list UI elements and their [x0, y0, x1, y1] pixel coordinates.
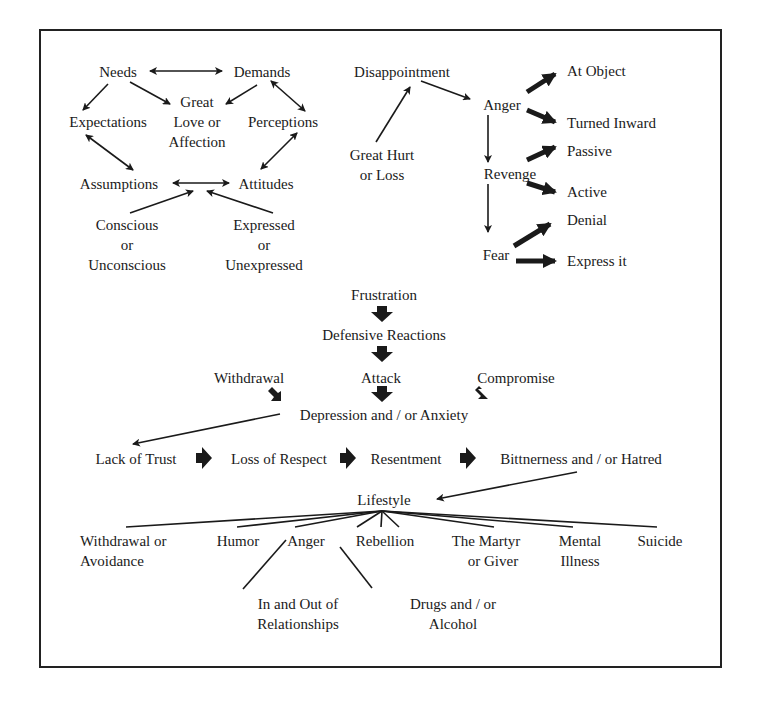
outcome-drugs-line1: Drugs and / or	[410, 594, 496, 614]
node-lack-of-trust: Lack of Trust	[96, 449, 177, 469]
node-conscious-line2: or	[121, 235, 134, 255]
outcome-relationships-line1: In and Out of	[258, 594, 338, 614]
outcome-withdrawal-line2: Avoidance	[80, 551, 144, 571]
node-turned-inward: Turned Inward	[567, 113, 656, 133]
outcome-withdrawal-line1: Withdrawal or	[80, 531, 166, 551]
node-expressed-line2: or	[258, 235, 271, 255]
node-defensive-reactions: Defensive Reactions	[322, 325, 446, 345]
node-revenge: Revenge	[484, 164, 536, 184]
node-express-it: Express it	[567, 251, 627, 271]
node-expressed-line3: Unexpressed	[225, 255, 302, 275]
node-expectations: Expectations	[69, 112, 146, 132]
outcome-rebellion: Rebellion	[356, 531, 414, 551]
node-great-hurt-line1: Great Hurt	[350, 145, 415, 165]
node-withdrawal: Withdrawal	[214, 368, 284, 388]
outcome-humor: Humor	[217, 531, 260, 551]
node-loss-of-respect: Loss of Respect	[231, 449, 327, 469]
node-conscious-line3: Unconscious	[88, 255, 166, 275]
node-bitterness: Bittnerness and / or Hatred	[500, 449, 662, 469]
node-attack: Attack	[361, 368, 401, 388]
node-demands: Demands	[234, 62, 291, 82]
node-passive: Passive	[567, 141, 612, 161]
node-active: Active	[567, 182, 607, 202]
node-anger: Anger	[483, 95, 521, 115]
outcome-martyr-line2: or Giver	[468, 551, 518, 571]
node-conscious-line1: Conscious	[96, 215, 159, 235]
node-assumptions: Assumptions	[80, 174, 158, 194]
outcome-martyr-line1: The Martyr	[452, 531, 521, 551]
node-at-object: At Object	[567, 61, 626, 81]
outcome-suicide: Suicide	[638, 531, 683, 551]
connector-lines	[0, 0, 759, 712]
node-great-hurt-line2: or Loss	[360, 165, 405, 185]
node-compromise: Compromise	[477, 368, 555, 388]
node-resentment: Resentment	[371, 449, 442, 469]
node-denial: Denial	[567, 210, 607, 230]
outcome-relationships-line2: Relationships	[257, 614, 339, 634]
node-great-love-line1: Great	[180, 92, 213, 112]
node-frustration: Frustration	[351, 285, 417, 305]
outcome-drugs-line2: Alcohol	[429, 614, 477, 634]
node-perceptions: Perceptions	[248, 112, 318, 132]
outcome-mental-line2: Illness	[560, 551, 599, 571]
outcome-anger: Anger	[287, 531, 325, 551]
node-disappointment: Disappointment	[354, 62, 450, 82]
node-expressed-line1: Expressed	[233, 215, 295, 235]
node-fear: Fear	[483, 245, 510, 265]
outcome-mental-line1: Mental	[559, 531, 602, 551]
node-lifestyle: Lifestyle	[357, 490, 410, 510]
node-great-love-line2: Love or	[173, 112, 220, 132]
node-needs: Needs	[99, 62, 137, 82]
node-great-love-line3: Affection	[168, 132, 225, 152]
node-attitudes: Attitudes	[239, 174, 294, 194]
node-depression: Depression and / or Anxiety	[300, 405, 468, 425]
